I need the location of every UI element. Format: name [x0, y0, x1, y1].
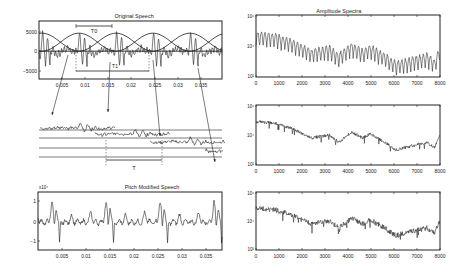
x-tick-label: 0: [255, 168, 258, 174]
y-tick-label: 10⁶: [247, 191, 254, 196]
analysis-window: [39, 33, 79, 51]
x-tick-label: 0.03: [177, 253, 187, 259]
x-tick-label: 1000: [273, 253, 284, 259]
y-tick-label: −1: [30, 238, 36, 244]
x-tick-label: 7000: [411, 253, 422, 259]
x-tick-label: 5000: [365, 168, 376, 174]
x-tick-label: 6000: [388, 168, 399, 174]
x-tick-label: 8000: [434, 80, 445, 86]
x-tick-label: 3000: [319, 168, 330, 174]
plot-amplitude-spectra-modified: 10⁶10⁴10²0100020003000400050006000700080…: [247, 191, 446, 259]
x-tick-label: 0.02: [126, 82, 136, 88]
x-tick-label: 7000: [411, 80, 422, 86]
y-multiplier: x10⁴: [39, 185, 48, 190]
plot-title: Amplitude Spectra: [316, 8, 362, 14]
plot-title: Original Speech: [115, 13, 154, 19]
y-tick-label: 0: [33, 219, 36, 225]
plot-original-speech: Original Speech50000−50000.0050.010.0150…: [23, 13, 222, 88]
y-tick-label: 10²: [247, 247, 254, 252]
y-tick-label: 10²: [247, 162, 254, 167]
x-tick-label: 0.005: [56, 253, 69, 259]
plot-pitch-modified-speech: Pitch Modified Speechx10⁴10−10.0050.010.…: [30, 184, 222, 259]
x-tick-label: 4000: [342, 80, 353, 86]
y-tick-label: 5000: [26, 29, 37, 35]
plot-amplitude-spectra-original: Amplitude Spectra10⁶10⁴10²01000200030004…: [247, 8, 446, 86]
t-label: T: [132, 165, 136, 171]
x-tick-label: 1000: [273, 168, 284, 174]
y-tick-label: −5000: [23, 68, 37, 74]
x-tick-label: 4000: [342, 168, 353, 174]
x-tick-label: 6000: [388, 253, 399, 259]
x-tick-label: 2000: [296, 80, 307, 86]
y-tick-label: 10⁴: [247, 133, 254, 138]
spectrum-line: [256, 121, 440, 152]
x-tick-label: 0.01: [80, 82, 90, 88]
x-tick-label: 4000: [342, 253, 353, 259]
y-tick-label: 10⁶: [247, 14, 254, 19]
x-tick-label: 7000: [411, 168, 422, 174]
plot-amplitude-spectra-segment: 10⁶10⁴10²0100020003000400050006000700080…: [247, 104, 446, 174]
segment-waveform: [205, 149, 223, 153]
y-tick-label: 10⁴: [247, 219, 254, 224]
segment-waveform: [95, 130, 170, 138]
y-tick-label: 1: [33, 198, 36, 204]
x-tick-label: 0.025: [152, 253, 165, 259]
plot-segments: T: [39, 123, 225, 171]
x-tick-label: 8000: [434, 253, 445, 259]
x-tick-label: 0.015: [104, 253, 117, 259]
x-tick-label: 2000: [296, 253, 307, 259]
x-tick-label: 0.015: [102, 82, 115, 88]
x-tick-label: 2000: [296, 168, 307, 174]
arrow-head: [213, 159, 215, 162]
spectrum-line: [256, 32, 440, 75]
segment-waveform: [40, 123, 115, 132]
y-tick-label: 0: [34, 48, 37, 54]
y-tick-label: 10⁴: [247, 44, 254, 49]
waveform-modified: [38, 200, 222, 243]
x-tick-label: 6000: [388, 80, 399, 86]
t0-label: T0: [91, 28, 97, 34]
x-tick-label: 0.03: [173, 82, 183, 88]
x-tick-label: 3000: [319, 253, 330, 259]
y-tick-label: 10⁶: [247, 104, 254, 109]
x-tick-label: 0.02: [129, 253, 139, 259]
plot-title: Pitch Modified Speech: [125, 184, 180, 190]
arrow-head: [107, 109, 109, 112]
x-tick-label: 0: [255, 80, 258, 86]
x-tick-label: 0.035: [200, 253, 213, 259]
x-tick-label: 0: [255, 253, 258, 259]
arrow-line: [153, 60, 160, 136]
x-tick-label: 8000: [434, 168, 445, 174]
x-tick-label: 0.01: [81, 253, 91, 259]
spectrum-line: [256, 206, 440, 239]
figure: Original Speech50000−50000.0050.010.0150…: [0, 0, 470, 275]
x-tick-label: 0.005: [56, 82, 69, 88]
t1-label: T1: [112, 63, 118, 69]
x-tick-label: 5000: [365, 253, 376, 259]
x-tick-label: 5000: [365, 80, 376, 86]
y-tick-label: 10²: [247, 74, 254, 79]
x-tick-label: 3000: [319, 80, 330, 86]
x-tick-label: 1000: [273, 80, 284, 86]
